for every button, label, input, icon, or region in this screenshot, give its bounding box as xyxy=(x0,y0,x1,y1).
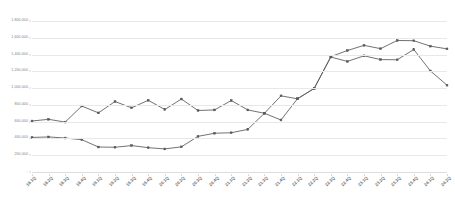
series-marker xyxy=(114,146,116,148)
series-marker xyxy=(131,107,133,109)
plot-area xyxy=(32,21,447,172)
series-marker xyxy=(446,48,448,50)
series-marker xyxy=(181,146,183,148)
y-tick-label: 1,200,000 xyxy=(11,70,28,74)
y-tick-label: 1,600,000 xyxy=(11,36,28,40)
y-tick-label: 1,800,000 xyxy=(11,19,28,23)
series-marker xyxy=(280,119,282,121)
y-tick-label: 200,000 xyxy=(14,153,28,157)
series-marker xyxy=(347,50,349,52)
series-marker xyxy=(347,61,349,63)
series-marker xyxy=(413,49,415,51)
y-tick-label: 800,000 xyxy=(14,103,28,107)
series-marker xyxy=(197,135,199,137)
series-marker xyxy=(380,59,382,61)
y-tick-label: 400,000 xyxy=(14,137,28,141)
series-marker xyxy=(280,95,282,97)
series-marker xyxy=(164,109,166,111)
series-marker xyxy=(131,145,133,147)
y-tick-mark xyxy=(29,21,31,22)
y-tick-mark xyxy=(29,37,31,38)
y-tick-label: 600,000 xyxy=(14,120,28,124)
series-marker xyxy=(230,100,232,102)
series-marker xyxy=(446,84,448,86)
gridline xyxy=(32,105,447,106)
series-marker xyxy=(396,40,398,42)
series-marker xyxy=(396,59,398,61)
series-marker xyxy=(297,98,299,100)
series-line-series-b xyxy=(32,40,447,148)
gridline xyxy=(32,155,447,156)
series-marker xyxy=(413,40,415,42)
series-marker xyxy=(164,148,166,150)
series-marker xyxy=(264,112,266,114)
series-marker xyxy=(247,128,249,130)
series-marker xyxy=(147,147,149,149)
series-marker xyxy=(98,146,100,148)
y-tick-label: 1,400,000 xyxy=(11,53,28,57)
y-tick-mark xyxy=(29,54,31,55)
series-marker xyxy=(114,101,116,103)
gridline xyxy=(32,55,447,56)
series-marker xyxy=(247,109,249,111)
y-tick-mark xyxy=(29,172,31,173)
gridline xyxy=(32,138,447,139)
y-tick-mark xyxy=(29,71,31,72)
x-axis: 18.1Q18.2Q18.3Q18.4Q19.1Q19.2Q19.3Q19.4Q… xyxy=(32,174,447,213)
gridline xyxy=(32,88,447,89)
y-tick-label: 1,000,000 xyxy=(11,86,28,90)
series-marker xyxy=(197,110,199,112)
gridline xyxy=(32,21,447,22)
gridline xyxy=(32,71,447,72)
y-tick-mark xyxy=(29,121,31,122)
series-marker xyxy=(48,118,50,120)
series-marker xyxy=(181,98,183,100)
gridline xyxy=(32,38,447,39)
series-marker xyxy=(147,99,149,101)
series-marker xyxy=(380,48,382,50)
y-tick-mark xyxy=(29,138,31,139)
y-tick-mark xyxy=(29,104,31,105)
y-tick-mark xyxy=(29,88,31,89)
series-line-series-a xyxy=(32,50,447,123)
line-chart: -200,000400,000600,000800,0001,000,0001,… xyxy=(0,0,455,213)
series-marker xyxy=(330,56,332,58)
series-marker xyxy=(430,45,432,47)
gridline xyxy=(32,172,447,173)
series-marker xyxy=(214,132,216,134)
series-marker xyxy=(214,109,216,111)
series-marker xyxy=(230,132,232,134)
gridline xyxy=(32,122,447,123)
y-tick-mark xyxy=(29,155,31,156)
series-marker xyxy=(363,44,365,46)
series-marker xyxy=(98,112,100,114)
y-tick-label: - xyxy=(27,170,28,174)
series-layer xyxy=(32,21,447,172)
